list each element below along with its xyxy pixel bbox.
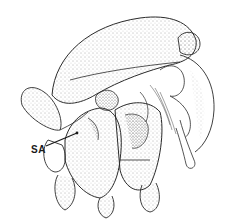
leg-mid <box>98 196 114 218</box>
head-detail <box>95 90 118 110</box>
specimen-illustration <box>0 0 227 223</box>
mouthpart-1 <box>160 66 184 96</box>
leg-right <box>140 183 159 212</box>
leg-left <box>55 175 75 210</box>
left-lobe-lower <box>44 140 66 172</box>
label-sa: SA <box>31 144 46 155</box>
dorsal-knob <box>178 32 200 54</box>
